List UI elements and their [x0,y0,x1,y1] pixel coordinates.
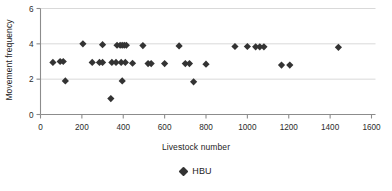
y-tick-label: 4 [29,40,34,49]
x-tick-label: 1000 [238,123,257,132]
legend-label-hbu: HBU [192,166,212,176]
y-tick-label: 6 [29,5,34,14]
plot-area: 024602004006008001000120014001600 [0,0,392,191]
x-tick-label: 1400 [321,123,340,132]
x-tick-label: 400 [116,123,130,132]
series-hbu [49,40,342,102]
y-axis-ticks: 0246 [29,5,41,120]
data-point [286,61,293,68]
data-point [122,59,129,66]
legend-diamond-icon [179,166,189,176]
data-point [129,60,136,67]
data-point [186,60,193,67]
data-point [278,61,285,68]
x-tick-label: 1600 [362,123,381,132]
x-tick-label: 1200 [280,123,299,132]
x-tick-label: 800 [199,123,213,132]
x-tick-label: 200 [75,123,89,132]
data-point [49,59,56,66]
x-tick-label: 600 [158,123,172,132]
data-point [89,59,96,66]
data-point [99,41,106,48]
scatter-chart: 024602004006008001000120014001600 Moveme… [0,0,392,191]
data-point [202,61,209,68]
data-point [119,77,126,84]
data-point [335,44,342,51]
data-point [107,95,114,102]
data-point [139,42,146,49]
x-tick-label: 0 [38,123,43,132]
data-point [62,77,69,84]
data-point [79,40,86,47]
gridlines [41,9,376,80]
y-tick-label: 2 [29,75,34,84]
y-tick-label: 0 [29,111,34,120]
x-axis-label: Livestock number [0,142,392,152]
x-axis-ticks: 02004006008001000120014001600 [38,115,381,132]
data-point [161,60,168,67]
legend: HBU [0,166,392,176]
